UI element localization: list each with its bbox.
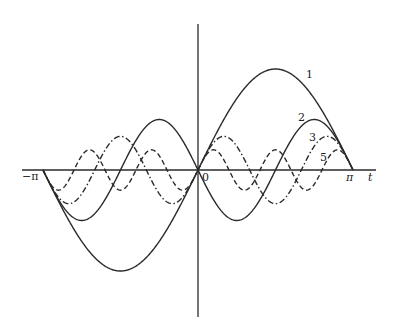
curve-label-5: 5 [320, 151, 327, 164]
x-axis-label: t [368, 171, 373, 184]
pi-label: π [345, 171, 354, 184]
curve-label-1: 1 [306, 68, 313, 81]
neg-pi-label: −π [22, 170, 38, 183]
curve-label-2: 2 [298, 111, 305, 124]
origin-label: 0 [202, 171, 209, 184]
curve-label-3: 3 [309, 131, 316, 144]
fourier-harmonics-chart: −π 0 π t 1235 [0, 0, 393, 336]
